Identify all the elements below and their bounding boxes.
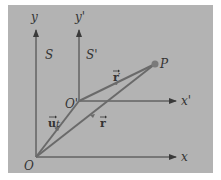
origin-o-prime-label: O' [65, 97, 78, 111]
svg-text:u: u [48, 117, 56, 130]
point-p-label: P [159, 57, 169, 71]
x-prime-axis-label: x' [181, 94, 191, 108]
y-axis-label: y [30, 10, 38, 24]
reference-frames-diagram: y y' S S' P x' x O' O u t r r ′ [0, 0, 221, 180]
svg-text:t: t [56, 118, 61, 129]
point-p-dot [152, 61, 159, 68]
y-prime-axis-label: y' [74, 10, 85, 24]
frame-s-axes [36, 30, 176, 157]
vector-ut-label: u t [48, 116, 61, 131]
frame-s-label: S [45, 48, 53, 62]
vector-r-prime-label: r ′ [113, 70, 121, 85]
vector-r-label: r [100, 116, 107, 131]
origin-o-label: O [24, 159, 34, 173]
frame-s-prime-label: S' [86, 48, 98, 62]
x-axis-label: x [181, 150, 188, 164]
vectors [36, 61, 159, 158]
vector-r [36, 64, 155, 157]
svg-text:r: r [100, 117, 106, 130]
